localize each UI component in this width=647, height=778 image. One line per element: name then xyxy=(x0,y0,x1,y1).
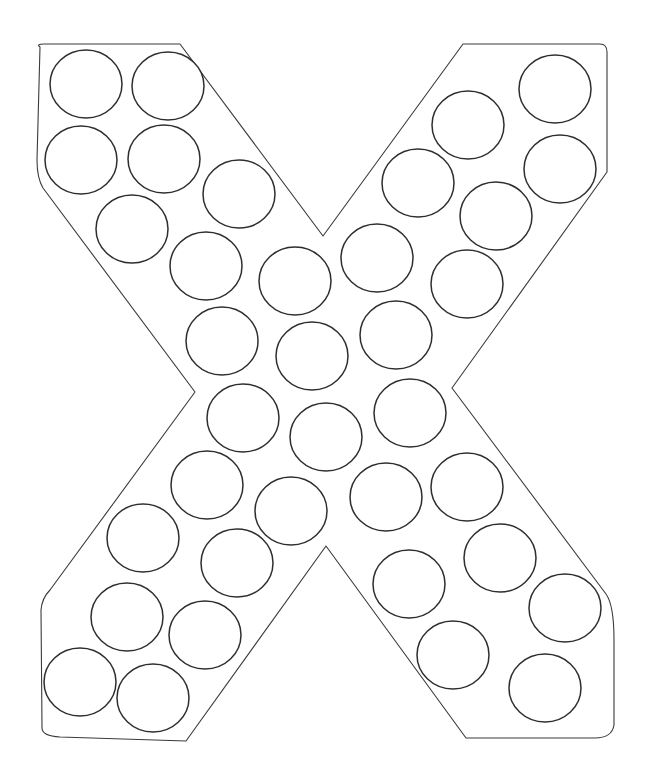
dot-circle[interactable] xyxy=(373,550,445,618)
dot-circle[interactable] xyxy=(132,52,204,120)
dot-circle[interactable] xyxy=(417,621,489,689)
dot-circle[interactable] xyxy=(107,504,179,572)
dot-circle[interactable] xyxy=(509,654,581,722)
dot-circle[interactable] xyxy=(519,55,591,123)
dot-circle[interactable] xyxy=(382,149,454,217)
dot-circle[interactable] xyxy=(360,301,432,369)
dot-circle[interactable] xyxy=(128,125,200,193)
dot-circle[interactable] xyxy=(201,529,273,597)
dot-circle[interactable] xyxy=(45,126,117,194)
dot-circles-group xyxy=(44,50,601,732)
dot-circle[interactable] xyxy=(91,583,163,651)
dot-circle[interactable] xyxy=(290,403,362,471)
dot-circle[interactable] xyxy=(431,250,503,318)
dot-circle[interactable] xyxy=(171,451,243,519)
dot-circle[interactable] xyxy=(96,195,168,263)
dot-circle[interactable] xyxy=(259,247,331,315)
dot-circle[interactable] xyxy=(169,601,241,669)
dot-circle[interactable] xyxy=(432,91,504,159)
dot-circle[interactable] xyxy=(464,524,536,592)
dot-circle[interactable] xyxy=(529,574,601,642)
dot-circle[interactable] xyxy=(341,224,413,292)
dot-circle[interactable] xyxy=(186,307,258,375)
dot-circle[interactable] xyxy=(207,384,279,452)
dot-circle[interactable] xyxy=(524,135,596,203)
dot-circle[interactable] xyxy=(276,322,348,390)
dot-circle[interactable] xyxy=(350,463,422,531)
dot-circle[interactable] xyxy=(374,379,446,447)
letter-x-dot-worksheet xyxy=(0,0,647,778)
dot-circle[interactable] xyxy=(431,453,503,521)
dot-circle[interactable] xyxy=(460,182,532,250)
dot-circle[interactable] xyxy=(203,160,275,228)
dot-circle[interactable] xyxy=(50,50,122,118)
dot-circle[interactable] xyxy=(170,232,242,300)
dot-circle[interactable] xyxy=(117,664,189,732)
dot-circle[interactable] xyxy=(255,477,327,545)
dot-circle[interactable] xyxy=(44,648,116,716)
